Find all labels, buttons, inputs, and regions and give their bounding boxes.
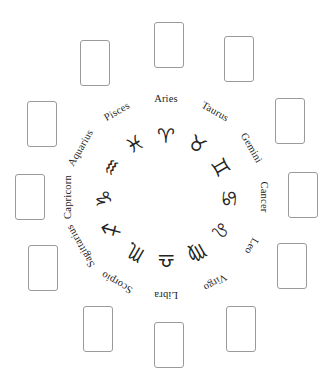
zodiac-wheel-figure: AriesTaurusGeminiCancerLeoVirgoLibraScor… [0,0,333,386]
card-slot-6-oclock[interactable] [154,322,184,368]
sign-label-aquarius: Aquarius [66,128,96,168]
sign-label-virgo: Virgo [202,271,229,293]
card-slot-1-oclock[interactable] [224,36,254,82]
sign-label-ring: AriesTaurusGeminiCancerLeoVirgoLibraScor… [0,0,333,386]
card-slot-2-oclock[interactable] [275,98,305,144]
sign-glyph-cancer-icon: ♋ [217,190,241,208]
sign-label-taurus: Taurus [200,100,231,124]
card-slot-3-oclock[interactable] [288,172,318,218]
sign-glyph-aries-icon: ♈ [157,124,175,148]
sign-label-sagittarius: Sagittarius [64,223,97,269]
sign-label-pisces: Pisces [102,100,131,123]
card-slot-5-oclock[interactable] [226,306,256,352]
sign-glyph-capricorn-icon: ♑ [92,190,116,208]
sign-glyph-leo-icon: ♌ [205,216,235,244]
sign-label-gemini: Gemini [238,131,264,165]
sign-glyph-sagittarius-icon: ♐ [97,216,127,244]
sign-glyph-scorpio-icon: ♏ [121,238,149,268]
card-slot-12-oclock[interactable] [154,22,184,68]
sign-label-aries: Aries [154,93,178,104]
sign-glyph-libra-icon: ♎ [157,249,175,273]
sign-label-scorpio: Scorpio [99,269,134,296]
sign-glyph-gemini-icon: ♊ [205,153,235,181]
sign-glyph-virgo-icon: ♍ [183,238,211,268]
card-slot-layer [0,0,333,386]
card-slot-10-oclock[interactable] [27,101,57,147]
sign-glyph-aquarius-icon: ♒ [97,153,127,181]
card-slot-8-oclock[interactable] [28,245,58,291]
sign-glyph-pisces-icon: ♓ [121,129,149,159]
sign-label-leo: Leo [242,236,260,256]
card-slot-4-oclock[interactable] [277,243,307,289]
sign-label-libra: Libra [154,290,178,301]
card-slot-7-oclock[interactable] [83,306,113,352]
sign-glyph-ring: ♈♉♊♋♌♍♎♏♐♑♒♓ [0,0,333,386]
sign-label-capricorn: Capricorn [62,175,73,219]
card-slot-9-oclock[interactable] [15,174,45,220]
sign-glyph-taurus-icon: ♉ [183,129,211,159]
card-slot-11-oclock[interactable] [80,40,110,86]
sign-label-cancer: Cancer [259,182,270,213]
